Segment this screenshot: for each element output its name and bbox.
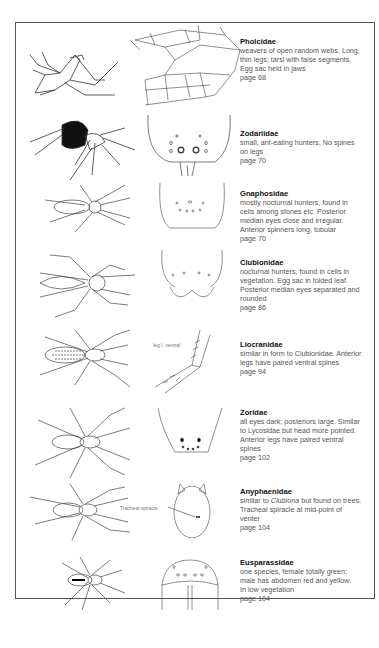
description-line: weavers of open random webs. Long,: [240, 46, 376, 55]
description-line: one species, female totally green;: [240, 567, 376, 576]
description-line: all eyes dark; posteriors large. Similar: [240, 417, 376, 426]
family-name: Anyphaenidae: [240, 487, 376, 496]
family-entry-zoridae: Zoridae all eyes dark; posteriors large.…: [240, 408, 376, 462]
description-line: similar to Clubiona but found on trees.: [240, 496, 376, 505]
description-line: venter: [240, 514, 376, 523]
family-entry-pholcidae: Pholcidae weavers of open random webs. L…: [240, 37, 376, 82]
page-reference: page 68: [240, 73, 376, 82]
family-entry-anyphaenidae: Anyphaenidae similar to Clubiona but fou…: [240, 487, 376, 532]
description-line: In low vegetation: [240, 585, 376, 594]
description-line: Tracheal spiracle at mid-point of: [240, 505, 376, 514]
family-name: Clubionidae: [240, 258, 376, 267]
family-name: Pholcidae: [240, 37, 376, 46]
page-reference: page 102: [240, 453, 376, 462]
description-line: rounded: [240, 294, 376, 303]
description-line: mostly nocturnal hunters, found in: [240, 198, 376, 207]
description-line: Anterior spinners long, tubular: [240, 225, 376, 234]
page-reference: page 70: [240, 156, 376, 165]
family-entry-eusparassidae: Eusparassidae one species, female totall…: [240, 558, 376, 603]
description-line: legs have paired ventral spines: [240, 358, 376, 367]
page-reference: page 94: [240, 367, 376, 376]
description-line: Posterior median eyes separated and: [240, 285, 376, 294]
family-name: Zoridae: [240, 408, 376, 417]
description-line: thin legs; tarsi with false segments.: [240, 55, 376, 64]
description-line: similar in form to Clubionidae. Anterior: [240, 349, 376, 358]
family-name: Zodariidae: [240, 129, 376, 138]
description-line: Anterior legs have paired ventral: [240, 435, 376, 444]
page-reference: page 104: [240, 594, 376, 603]
description-line: cells among stones etc. Posterior: [240, 207, 376, 216]
page-reference: page 70: [240, 234, 376, 243]
description-line: small, ant-eating hunters. No spines: [240, 138, 376, 147]
description-line: to Lycosidae but head more pointed.: [240, 426, 376, 435]
description-line: nocturnal hunters, found in cells in: [240, 267, 376, 276]
description-line: spines: [240, 444, 376, 453]
family-name: Eusparassidae: [240, 558, 376, 567]
family-name: Liocranidae: [240, 340, 376, 349]
description-line: male has abdomen red and yellow.: [240, 576, 376, 585]
family-entry-gnaphosidae: Gnaphosidae mostly nocturnal hunters, fo…: [240, 189, 376, 243]
description-line: on legs: [240, 147, 376, 156]
page-reference: page 104: [240, 523, 376, 532]
family-name: Gnaphosidae: [240, 189, 376, 198]
description-line: median eyes close and irregular.: [240, 216, 376, 225]
leg-ventral-label: leg I, ventral: [153, 342, 180, 348]
description-text: similar to: [240, 496, 271, 505]
family-entry-liocranidae: Liocranidae similar in form to Clubionid…: [240, 340, 376, 376]
family-entry-zodariidae: Zodariidae small, ant-eating hunters. No…: [240, 129, 376, 165]
page-reference: page 86: [240, 303, 376, 312]
description-line: Egg sac held in jaws: [240, 64, 376, 73]
tracheal-spiracle-label: Tracheal spiracle: [120, 505, 158, 511]
family-entry-clubionidae: Clubionidae nocturnal hunters, found in …: [240, 258, 376, 312]
description-line: vegetation. Egg sac in folded leaf.: [240, 276, 376, 285]
description-text: but found on trees.: [299, 496, 361, 505]
genus-name: Clubiona: [271, 496, 299, 505]
